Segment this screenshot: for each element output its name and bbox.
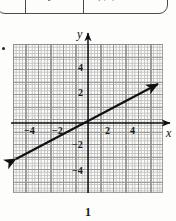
x-axis-label: x — [166, 127, 171, 139]
coordinate-graph — [13, 44, 163, 193]
table-fragment: y (-, -) — [0, 0, 168, 14]
x-tick-label-2: 2 — [105, 126, 110, 136]
x-tick-label-neg2: −2 — [52, 126, 63, 136]
table-cell-middle: y — [49, 0, 53, 1]
table-cell-right: (-, -) — [97, 0, 115, 1]
figure-number: 1 — [0, 205, 176, 220]
y-tick-label-neg2: −2 — [72, 140, 83, 150]
grid-border — [13, 44, 163, 193]
y-tick-label-2: 2 — [78, 88, 83, 98]
x-tick-label-neg4: −4 — [24, 126, 35, 136]
table-column-divider-2 — [83, 0, 84, 13]
x-tick-label-4: 4 — [130, 126, 135, 136]
y-tick-label-4: 4 — [78, 63, 83, 73]
table-column-divider-1 — [25, 0, 26, 13]
y-tick-label-neg4: −4 — [72, 166, 83, 176]
y-axis-label: y — [77, 28, 82, 40]
list-bullet-marker — [2, 47, 5, 50]
